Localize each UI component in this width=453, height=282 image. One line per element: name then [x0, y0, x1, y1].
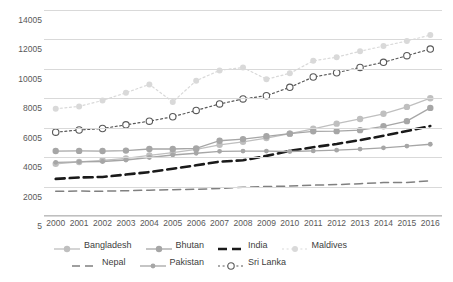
- series-marker: [358, 147, 363, 152]
- series-marker: [287, 70, 293, 76]
- series-marker: [53, 129, 59, 135]
- legend-item[interactable]: Pakistan: [140, 255, 205, 269]
- series-marker: [216, 138, 222, 144]
- series-marker: [170, 146, 176, 152]
- series-line: [56, 49, 431, 132]
- legend-label: Sri Lanka: [248, 257, 286, 267]
- gridline: [44, 216, 442, 217]
- gridline: [44, 98, 442, 99]
- series-marker: [193, 107, 199, 113]
- series-marker: [357, 116, 363, 122]
- series-marker: [170, 99, 176, 105]
- x-tick-label: 2015: [397, 218, 416, 228]
- series-marker: [333, 120, 339, 126]
- series-marker: [357, 48, 363, 54]
- series-marker: [428, 142, 433, 147]
- series-marker: [311, 148, 316, 153]
- legend-label: Maldives: [312, 240, 348, 250]
- series-marker: [427, 105, 433, 111]
- series-marker: [264, 149, 269, 154]
- x-tick-label: 2011: [304, 218, 322, 228]
- gridline: [44, 39, 442, 40]
- series-marker: [287, 84, 293, 90]
- series-marker: [310, 128, 316, 134]
- y-tick-label: 10005: [2, 74, 42, 84]
- x-tick-label: 2006: [187, 218, 206, 228]
- x-axis-line: [44, 215, 442, 216]
- series-marker: [193, 78, 199, 84]
- series-marker: [427, 32, 433, 38]
- y-tick-label: 14005: [2, 15, 42, 25]
- legend-item[interactable]: Nepal: [72, 255, 126, 269]
- series-marker: [333, 70, 339, 76]
- series-marker: [404, 144, 409, 149]
- legend-swatch-icon: [282, 240, 308, 250]
- series-marker: [170, 114, 176, 120]
- legend-item[interactable]: Bangladesh: [54, 238, 132, 252]
- x-tick-label: 2013: [351, 218, 370, 228]
- series-marker: [427, 46, 433, 52]
- series-marker: [263, 133, 269, 139]
- series-marker: [380, 59, 386, 65]
- gridline: [44, 10, 442, 11]
- series-layer: [44, 10, 442, 216]
- series-marker: [99, 148, 105, 154]
- chart-container: 52005400560058005100051200514005 2000200…: [0, 0, 453, 282]
- plot-area: [44, 10, 442, 216]
- series-marker: [217, 149, 222, 154]
- y-tick-label: 8005: [2, 103, 42, 113]
- legend-item[interactable]: Bhutan: [146, 238, 205, 252]
- series-marker: [287, 130, 293, 136]
- series-marker: [76, 148, 82, 154]
- gridline: [44, 187, 442, 188]
- legend-swatch-icon: [72, 257, 98, 267]
- series-marker: [241, 149, 246, 154]
- series-marker: [77, 159, 82, 164]
- gridline: [44, 128, 442, 129]
- legend-row-2: NepalPakistanSri Lanka: [54, 255, 414, 272]
- x-tick-label: 2014: [374, 218, 393, 228]
- x-tick-label: 2004: [140, 218, 159, 228]
- legend-item[interactable]: India: [218, 238, 268, 252]
- x-tick-label: 2002: [93, 218, 112, 228]
- y-axis-ticks: 52005400560058005100051200514005: [0, 10, 42, 216]
- series-line: [56, 98, 431, 164]
- series-marker: [193, 145, 199, 151]
- x-axis-ticks: 2000200120022003200420052006200720082009…: [44, 218, 442, 232]
- series-marker: [404, 104, 410, 110]
- x-tick-label: 2016: [421, 218, 440, 228]
- series-marker: [263, 76, 269, 82]
- legend-swatch-icon: [140, 257, 166, 267]
- x-tick-label: 2012: [327, 218, 346, 228]
- series-marker: [404, 52, 410, 58]
- y-tick-label: 4005: [2, 162, 42, 172]
- legend-swatch-icon: [54, 240, 80, 250]
- legend-item[interactable]: Sri Lanka: [218, 255, 286, 269]
- series-marker: [123, 147, 129, 153]
- legend-row-1: BangladeshBhutanIndiaMaldives: [54, 238, 414, 255]
- x-tick-label: 2000: [46, 218, 65, 228]
- y-tick-label: 5: [2, 221, 42, 231]
- chart-legend: BangladeshBhutanIndiaMaldives NepalPakis…: [54, 238, 414, 272]
- legend-label: Pakistan: [170, 257, 205, 267]
- x-tick-label: 2005: [163, 218, 182, 228]
- legend-label: India: [248, 240, 268, 250]
- series-marker: [53, 148, 59, 154]
- y-tick-label: 12005: [2, 44, 42, 54]
- series-marker: [53, 160, 58, 165]
- series-marker: [240, 136, 246, 142]
- y-tick-label: 6005: [2, 133, 42, 143]
- series-marker: [146, 118, 152, 124]
- legend-swatch-icon: [218, 257, 244, 267]
- legend-item[interactable]: Maldives: [282, 238, 348, 252]
- series-marker: [310, 74, 316, 80]
- legend-label: Bangladesh: [84, 240, 132, 250]
- series-marker: [100, 159, 105, 164]
- y-tick-label: 2005: [2, 192, 42, 202]
- legend-label: Nepal: [102, 257, 126, 267]
- x-tick-label: 2007: [210, 218, 229, 228]
- x-tick-label: 2003: [116, 218, 135, 228]
- series-marker: [334, 54, 340, 60]
- series-marker: [194, 151, 199, 156]
- series-marker: [381, 145, 386, 150]
